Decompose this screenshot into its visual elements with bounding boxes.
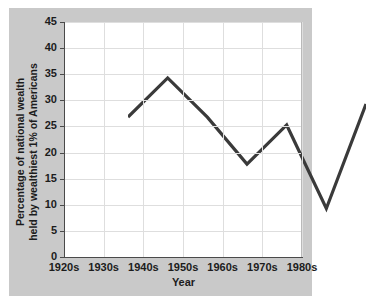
y-tick-mark <box>60 100 64 101</box>
y-tick-mark <box>60 205 64 206</box>
y-tick-mark <box>60 257 64 258</box>
plot-area <box>64 22 302 257</box>
gridline-vertical <box>104 22 105 257</box>
x-axis-spine <box>64 257 303 258</box>
y-tick-mark <box>60 74 64 75</box>
gridline-vertical <box>223 22 224 257</box>
y-axis-title: Percentage of national wealth held by we… <box>14 34 40 270</box>
data-line-path <box>128 78 366 209</box>
y-tick-mark <box>60 179 64 180</box>
x-tick-label: 1980s <box>279 261 325 273</box>
y-axis-title-line-1: Percentage of national wealth <box>14 34 27 270</box>
gridline-vertical <box>302 22 303 257</box>
gridline-vertical <box>143 22 144 257</box>
x-axis-title: Year <box>64 276 303 288</box>
y-axis-spine <box>64 22 65 258</box>
gridline-vertical <box>183 22 184 257</box>
line-series <box>128 44 366 279</box>
y-axis-title-line-2: held by wealthiest 1% of Americans <box>27 34 40 270</box>
y-tick-label: 45 <box>35 16 57 27</box>
y-tick-mark <box>60 231 64 232</box>
gridline-vertical <box>262 22 263 257</box>
y-tick-mark <box>60 48 64 49</box>
y-tick-mark <box>60 153 64 154</box>
y-tick-mark <box>60 22 64 23</box>
y-tick-mark <box>60 126 64 127</box>
